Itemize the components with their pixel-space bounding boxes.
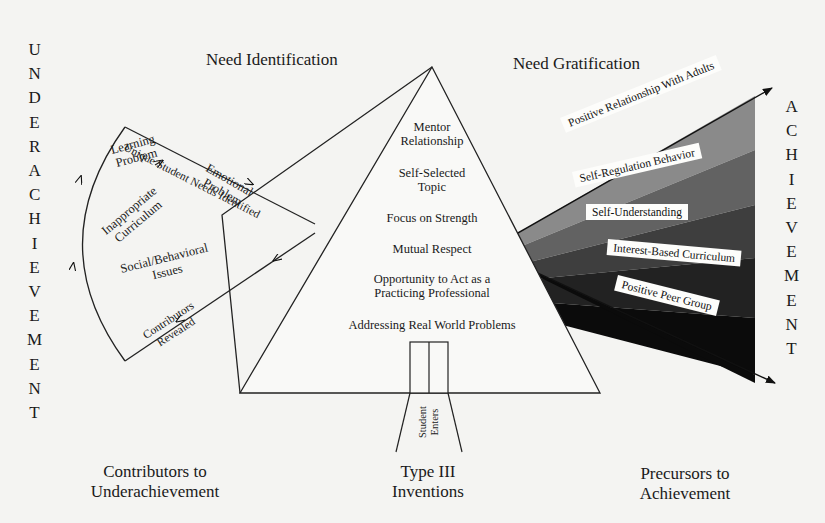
- pyramid-item-real-world: Addressing Real World Problems: [322, 318, 542, 332]
- pyramid-item-mentor: MentorRelationship: [372, 120, 492, 148]
- underachievement-vertical-word: UNDERACHIEVEMENT: [27, 38, 42, 425]
- caption-type-iii-inventions: Type IIIInventions: [378, 462, 478, 502]
- pyramid-item-practicing-professional: Opportunity to Act as aPracticing Profes…: [342, 272, 522, 300]
- underachievement-to-achievement-diagram: UNDERACHIEVEMENT ACHIEVEMENT Need Identi…: [0, 0, 825, 523]
- need-identification-heading: Need Identification: [206, 50, 338, 70]
- pyramid-item-mutual-respect: Mutual Respect: [352, 242, 512, 256]
- achievement-vertical-word: ACHIEVEMENT: [784, 95, 799, 361]
- entry-right-line: [448, 393, 462, 452]
- caption-precursors-achievement: Precursors toAchievement: [620, 464, 750, 504]
- pyramid-item-self-selected: Self-SelectedTopic: [372, 166, 492, 194]
- need-gratification-heading: Need Gratification: [513, 54, 640, 74]
- student-enters-label: StudentEnters: [417, 395, 441, 449]
- band-label-self-understanding: Self-Understanding: [586, 204, 688, 220]
- pyramid-item-focus-strength: Focus on Strength: [352, 211, 512, 225]
- caption-contributors-underachievement: Contributors toUnderachievement: [75, 462, 235, 502]
- entry-left-line: [396, 393, 410, 452]
